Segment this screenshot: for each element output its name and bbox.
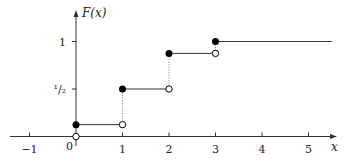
open-point xyxy=(73,133,79,139)
axes xyxy=(10,10,337,146)
filled-point xyxy=(73,121,80,128)
x-tick-label: 4 xyxy=(259,143,266,156)
x-tick-label: 2 xyxy=(166,143,173,156)
step-segments xyxy=(76,42,332,125)
x-axis-label: x xyxy=(331,140,338,154)
filled-point xyxy=(119,86,126,93)
x-axis-arrow-icon xyxy=(330,134,337,139)
x-tick-label: −1 xyxy=(21,143,37,156)
cdf-step-chart: −112345¹/₂1 F(x) x 0 xyxy=(0,0,357,168)
origin-label: 0 xyxy=(66,140,73,153)
labels: F(x) x 0 xyxy=(66,6,338,154)
filled-point xyxy=(166,50,173,57)
y-tick-label: ¹/₂ xyxy=(53,83,66,96)
open-point xyxy=(212,50,218,56)
x-tick-label: 5 xyxy=(305,143,312,156)
open-point xyxy=(119,121,125,127)
x-tick-label: 3 xyxy=(212,143,219,156)
open-point xyxy=(166,86,172,92)
y-axis-arrow-icon xyxy=(74,10,79,17)
filled-point xyxy=(212,38,219,45)
y-tick-label: 1 xyxy=(59,36,66,49)
y-axis-label: F(x) xyxy=(81,6,107,20)
x-tick-label: 1 xyxy=(119,143,126,156)
